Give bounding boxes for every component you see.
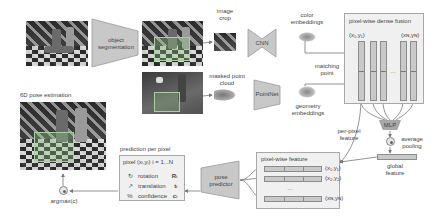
segmentation-module: object segmentation	[91, 18, 139, 68]
translation-label: translation	[138, 182, 166, 190]
translation-icon: ↗	[126, 182, 134, 190]
matching-point-label: matching point	[312, 63, 342, 77]
feature-row-ellipsis: …	[287, 185, 293, 192]
image-crop-label: image crop	[212, 8, 238, 22]
feature-row	[264, 166, 322, 172]
feature-row	[264, 196, 322, 202]
fusion-column	[370, 41, 377, 101]
prediction-header: pixel (xᵢ,yᵢ) i = 1...N	[123, 159, 173, 166]
input-rgb-image	[26, 21, 88, 66]
cnn-label: CNN	[247, 40, 277, 47]
segmented-image	[142, 21, 203, 66]
mlp-label: MLP	[379, 122, 401, 129]
confidence-symbol: cᵢ	[173, 192, 177, 200]
average-pooling-label: average pooling	[398, 136, 426, 150]
geometry-embedding-blob	[298, 86, 316, 98]
color-embeddings-label: color embeddings	[290, 12, 324, 26]
feature-row-coord: (x₂,y₂)	[325, 175, 341, 182]
prediction-row-rotation: ↻ rotation Rᵢ	[124, 172, 180, 180]
cnn-module: CNN	[247, 28, 277, 58]
fusion-ellipsis: …	[390, 68, 396, 75]
first-pixel-coord: (x₁,y₁)	[349, 32, 365, 39]
dense-fusion-title: pixel-wise dense fusion	[349, 18, 411, 25]
confidence-label: confidence	[138, 192, 167, 200]
pose-estimation-image	[20, 102, 106, 170]
prediction-row-confidence: % confidence cᵢ	[124, 192, 180, 200]
output-title: 6D pose estimation	[20, 92, 71, 99]
pose-predictor-label: pose predictor	[204, 174, 238, 188]
feature-row	[264, 176, 322, 182]
average-pooling-icon	[386, 137, 395, 146]
dense-fusion-panel: pixel-wise dense fusion (x₁,y₁) (xɴ,yɴ) …	[344, 13, 424, 104]
argmax-icon	[59, 186, 68, 195]
feature-row-coord: (x₁,y₁)	[325, 165, 341, 172]
prediction-title: prediction per pixel	[120, 146, 170, 153]
point-cloud-blob	[214, 89, 236, 101]
pointnet-label: PointNet	[253, 91, 281, 98]
pointnet-module: PointNet	[253, 79, 281, 111]
fusion-column	[400, 41, 407, 101]
translation-symbol: tᵢ	[174, 182, 177, 190]
last-pixel-coord: (xɴ,yɴ)	[401, 32, 419, 39]
fusion-column	[410, 41, 417, 101]
global-feature-label: global feature	[382, 163, 408, 177]
prediction-panel: pixel (xᵢ,yᵢ) i = 1...N ↻ rotation Rᵢ ↗ …	[119, 155, 185, 201]
rotation-icon: ↻	[126, 172, 134, 180]
depth-image	[142, 72, 203, 114]
per-pixel-feature-label: per-pixel feature	[336, 128, 362, 142]
global-feature-bar	[377, 154, 417, 160]
mlp-module: MLP	[379, 120, 401, 130]
geometry-embeddings-label: geometry embeddings	[290, 103, 326, 117]
image-crop	[214, 33, 236, 51]
fusion-column	[380, 41, 387, 101]
pixel-wise-feature-panel: pixel-wise feature (x₁,y₁) (x₂,y₂) … (xɴ…	[256, 152, 340, 209]
confidence-icon: %	[126, 192, 134, 200]
color-embedding-blob	[298, 32, 316, 42]
prediction-row-translation: ↗ translation tᵢ	[124, 182, 180, 190]
pose-predictor-module: pose predictor	[200, 160, 240, 200]
feature-row-coord: (xɴ,yɴ)	[325, 195, 343, 202]
pixel-wise-feature-title: pixel-wise feature	[261, 156, 308, 163]
segmentation-label: object segmentation	[95, 37, 137, 51]
rotation-symbol: Rᵢ	[172, 172, 177, 180]
masked-point-cloud-label: masked point cloud	[209, 73, 245, 87]
fusion-column	[358, 41, 365, 101]
rotation-label: rotation	[138, 172, 158, 180]
argmax-label: argmax(c)	[46, 198, 82, 205]
